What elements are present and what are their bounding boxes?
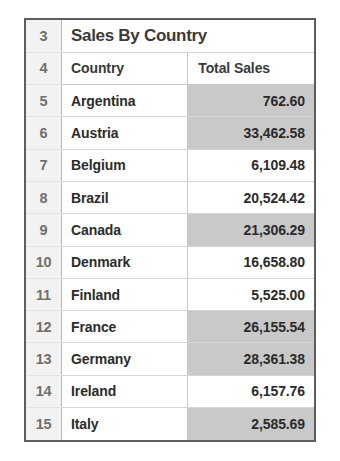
table-row: 10 Denmark 16,658.80 xyxy=(26,246,314,278)
table-row: 6 Austria 33,462.58 xyxy=(26,117,314,149)
title-row: 3 Sales By Country xyxy=(26,20,314,52)
cell-total-sales[interactable]: 26,155.54 xyxy=(188,311,314,343)
row-header[interactable]: 9 xyxy=(26,214,62,246)
cell-total-sales[interactable]: 2,585.69 xyxy=(188,408,314,440)
cell-total-sales[interactable]: 762.60 xyxy=(188,85,314,117)
cell-country[interactable]: Ireland xyxy=(62,375,188,407)
column-header-country[interactable]: Country xyxy=(62,52,188,84)
row-header[interactable]: 11 xyxy=(26,278,62,310)
table-row: 8 Brazil 20,524.42 xyxy=(26,181,314,213)
row-header[interactable]: 13 xyxy=(26,343,62,375)
table-row: 13 Germany 28,361.38 xyxy=(26,343,314,375)
cell-total-sales[interactable]: 33,462.58 xyxy=(188,117,314,149)
row-header-4[interactable]: 4 xyxy=(26,52,62,84)
cell-country[interactable]: Argentina xyxy=(62,85,188,117)
row-header[interactable]: 6 xyxy=(26,117,62,149)
cell-total-sales[interactable]: 28,361.38 xyxy=(188,343,314,375)
cell-country[interactable]: Finland xyxy=(62,278,188,310)
row-header[interactable]: 5 xyxy=(26,85,62,117)
cell-total-sales[interactable]: 20,524.42 xyxy=(188,181,314,213)
page-title[interactable]: Sales By Country xyxy=(62,20,315,52)
spreadsheet-frame: 3 Sales By Country 4 Country Total Sales… xyxy=(24,18,316,442)
cell-country[interactable]: Italy xyxy=(62,408,188,440)
column-header-total-sales[interactable]: Total Sales xyxy=(188,52,314,84)
cell-total-sales[interactable]: 6,109.48 xyxy=(188,149,314,181)
table-row: 5 Argentina 762.60 xyxy=(26,85,314,117)
column-header-row: 4 Country Total Sales xyxy=(26,52,314,84)
sales-by-country-table: 3 Sales By Country 4 Country Total Sales… xyxy=(26,20,314,440)
row-header[interactable]: 8 xyxy=(26,181,62,213)
table-row: 9 Canada 21,306.29 xyxy=(26,214,314,246)
table-row: 12 France 26,155.54 xyxy=(26,311,314,343)
row-header[interactable]: 15 xyxy=(26,408,62,440)
cell-country[interactable]: Germany xyxy=(62,343,188,375)
row-header[interactable]: 14 xyxy=(26,375,62,407)
row-header[interactable]: 7 xyxy=(26,149,62,181)
row-header[interactable]: 10 xyxy=(26,246,62,278)
cell-country[interactable]: Denmark xyxy=(62,246,188,278)
table-row: 11 Finland 5,525.00 xyxy=(26,278,314,310)
table-body: 3 Sales By Country 4 Country Total Sales… xyxy=(26,20,314,440)
cell-total-sales[interactable]: 6,157.76 xyxy=(188,375,314,407)
cell-country[interactable]: France xyxy=(62,311,188,343)
cell-country[interactable]: Belgium xyxy=(62,149,188,181)
cell-country[interactable]: Austria xyxy=(62,117,188,149)
row-header-3[interactable]: 3 xyxy=(26,20,62,52)
cell-total-sales[interactable]: 16,658.80 xyxy=(188,246,314,278)
cell-country[interactable]: Brazil xyxy=(62,181,188,213)
cell-total-sales[interactable]: 5,525.00 xyxy=(188,278,314,310)
table-row: 15 Italy 2,585.69 xyxy=(26,408,314,440)
table-row: 14 Ireland 6,157.76 xyxy=(26,375,314,407)
cell-country[interactable]: Canada xyxy=(62,214,188,246)
cell-total-sales[interactable]: 21,306.29 xyxy=(188,214,314,246)
table-row: 7 Belgium 6,109.48 xyxy=(26,149,314,181)
row-header[interactable]: 12 xyxy=(26,311,62,343)
